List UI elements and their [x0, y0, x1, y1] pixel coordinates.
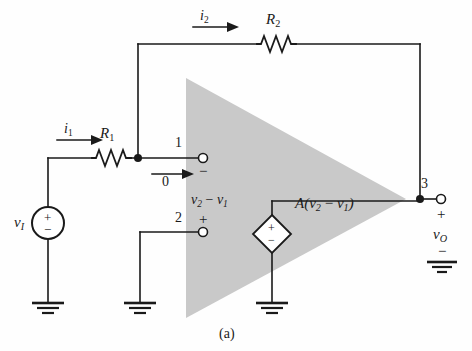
junction-dot-node1 [134, 154, 142, 162]
circuit-schematic-svg [0, 0, 472, 351]
source-minus-sign: − [44, 223, 51, 236]
node-label-3: 3 [421, 177, 428, 191]
terminal2-plus-sign: + [199, 212, 207, 227]
node-label-1: 1 [175, 136, 182, 150]
current-label-i1: i1 [64, 122, 73, 138]
resistor-r2-symbol [257, 36, 296, 52]
terminal-circle-node1 [199, 154, 208, 163]
output-minus-sign: − [438, 244, 446, 259]
terminal-circle-node2 [199, 228, 208, 237]
terminal1-minus-sign: − [199, 164, 207, 179]
dependent-source-label: A(v2 − v1) [295, 196, 354, 213]
terminal-circle-node3 [437, 195, 446, 204]
resistor-r1-symbol [92, 150, 131, 166]
resistor-label-r2: R2 [266, 12, 280, 29]
output-label-v-o: vO [433, 227, 447, 244]
source-label-v-i: vI [14, 215, 24, 232]
differential-voltage-label: v2 − v1 [191, 193, 228, 209]
current-label-zero: 0 [162, 175, 169, 189]
node-label-2: 2 [175, 211, 182, 225]
junction-dot-node3 [416, 195, 424, 203]
current-arrow-i2-head [227, 22, 239, 32]
circuit-figure: vI + − i1 R1 i2 R2 1 0 − 2 + v2 − v1 A(v… [0, 0, 472, 351]
output-plus-sign: + [437, 207, 445, 222]
dependent-source-minus-sign: − [268, 234, 275, 246]
current-label-i2: i2 [200, 9, 209, 25]
figure-caption: (a) [219, 327, 235, 341]
resistor-label-r1: R1 [100, 126, 114, 143]
